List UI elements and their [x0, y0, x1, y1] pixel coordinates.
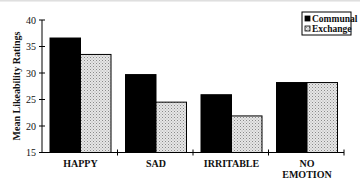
x-category-label: NO [300, 158, 315, 169]
x-category-label: SAD [146, 158, 166, 169]
bar-exchange-happy [81, 54, 112, 152]
y-tick-label: 30 [26, 68, 36, 79]
y-tick-label: 25 [26, 94, 36, 105]
legend: Communal Exchange [302, 12, 358, 35]
x-category-label: HAPPY [63, 158, 98, 169]
y-tick-label: 20 [26, 121, 36, 132]
y-tick-label: 15 [26, 147, 36, 158]
bar-communal-no-emotion [277, 83, 308, 153]
bar-communal-irritable [201, 95, 232, 153]
bar-exchange-irritable [232, 116, 263, 153]
bar-exchange-no-emotion [307, 83, 338, 153]
bar-communal-sad [126, 75, 157, 153]
bar-communal-happy [50, 38, 81, 152]
legend-label-exchange: Exchange [312, 24, 352, 34]
y-axis: 152025303540 [26, 15, 45, 159]
x-category-label: IRRITABLE [204, 158, 260, 169]
x-axis: HAPPYSADIRRITABLENOEMOTION [42, 150, 344, 181]
y-axis-title: Mean Likeability Ratings [11, 31, 22, 140]
bar-chart: Mean Likeability Ratings 152025303540 HA… [0, 0, 360, 186]
legend-swatch-exchange [305, 26, 310, 31]
y-tick-label: 40 [26, 15, 36, 26]
legend-swatch-communal [305, 16, 310, 21]
y-tick-label: 35 [26, 41, 36, 52]
bar-exchange-sad [156, 102, 187, 152]
legend-label-communal: Communal [312, 14, 358, 24]
bars [50, 38, 338, 152]
x-category-label: EMOTION [282, 169, 332, 180]
